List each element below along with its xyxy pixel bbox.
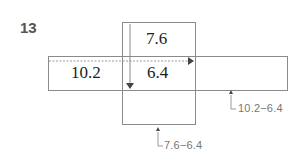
center-cell-value: 6.4	[147, 63, 168, 83]
annotation-right: 10.2−6.4	[238, 102, 283, 114]
annotation-bottom: 7.6−6.4	[164, 139, 202, 151]
bracket-line	[158, 132, 163, 146]
bracket-line	[231, 95, 236, 109]
arrow-up-icon	[156, 127, 160, 131]
arrow-up-icon	[229, 90, 233, 94]
arrow-down-icon	[126, 83, 134, 89]
arrow-right-icon	[188, 57, 194, 65]
top-cell-value: 7.6	[146, 29, 167, 49]
left-cell-value: 10.2	[71, 63, 101, 83]
